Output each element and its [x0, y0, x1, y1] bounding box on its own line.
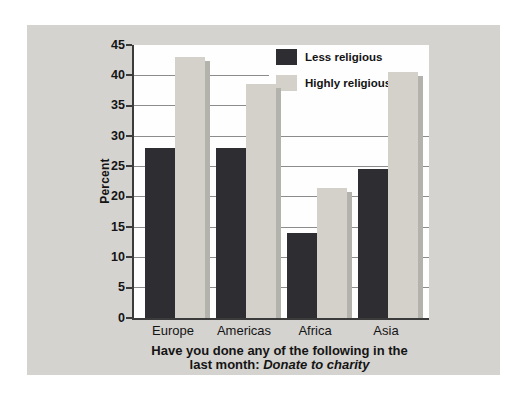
y-tick-mark-30	[126, 135, 132, 137]
x-axis-labels: EuropeAmericasAfricaAsia	[132, 323, 427, 339]
y-tick-label-45: 45	[111, 39, 125, 52]
caption-line1: Have you done any of the following in th…	[151, 343, 407, 358]
y-tick-mark-10	[126, 256, 132, 258]
y-tick-label-5: 5	[118, 281, 125, 294]
bar-group-africa	[287, 45, 347, 318]
y-tick-mark-15	[126, 226, 132, 228]
bar-americas-highly-religious	[246, 84, 276, 318]
bar-asia-highly-religious	[388, 72, 418, 318]
bar-africa-less-religious	[287, 233, 317, 318]
caption-line2-prefix: last month:	[190, 357, 264, 372]
y-tick-mark-35	[126, 105, 132, 107]
y-tick-label-25: 25	[111, 160, 125, 173]
bar-asia-less-religious	[358, 169, 388, 318]
bar-europe-less-religious	[145, 148, 175, 318]
y-tick-label-0: 0	[118, 312, 125, 325]
y-tick-label-40: 40	[111, 69, 125, 82]
x-label-europe: Europe	[152, 323, 194, 338]
plot-area: Less religious Highly religious	[132, 45, 429, 320]
y-tick-mark-20	[126, 196, 132, 198]
figure-panel: Percent 051015202530354045 Less religiou…	[27, 25, 500, 375]
y-tick-mark-40	[126, 74, 132, 76]
y-axis-tick-labels: 051015202530354045	[85, 45, 125, 318]
bar-group-americas	[216, 45, 276, 318]
caption-line2-italic: Donate to charity	[263, 357, 369, 372]
y-tick-mark-0	[126, 317, 132, 319]
y-tick-label-20: 20	[111, 190, 125, 203]
bar-americas-less-religious	[216, 148, 246, 318]
y-tick-label-15: 15	[111, 221, 125, 234]
bar-group-europe	[145, 45, 205, 318]
x-label-asia: Asia	[373, 323, 398, 338]
bar-group-asia	[358, 45, 418, 318]
x-label-africa: Africa	[298, 323, 331, 338]
bar-europe-highly-religious	[175, 57, 205, 318]
y-tick-label-10: 10	[111, 251, 125, 264]
bar-africa-highly-religious	[317, 188, 347, 318]
y-tick-mark-45	[126, 44, 132, 46]
x-label-americas: Americas	[217, 323, 271, 338]
y-tick-label-30: 30	[111, 130, 125, 143]
caption: Have you done any of the following in th…	[112, 344, 447, 372]
y-tick-mark-25	[126, 165, 132, 167]
page: Percent 051015202530354045 Less religiou…	[0, 0, 513, 394]
y-tick-label-35: 35	[111, 99, 125, 112]
y-tick-mark-5	[126, 287, 132, 289]
